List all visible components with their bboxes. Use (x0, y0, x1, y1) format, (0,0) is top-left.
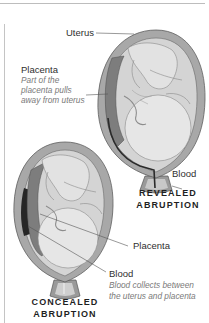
note-blood-line1: Blood collects between (109, 280, 194, 291)
caption-revealed-line2: ABRUPTION (130, 200, 206, 211)
label-blood-bottom: Blood (109, 268, 133, 279)
abruption-illustration (0, 0, 209, 323)
note-blood-line2: the uterus and placenta (109, 291, 196, 302)
caption-concealed-line1: CONCEALED (27, 297, 103, 308)
concealed-uterus-figure (14, 142, 113, 299)
caption-revealed-line1: REVEALED (130, 188, 206, 199)
note-placenta-line1: Part of the (21, 75, 59, 86)
label-blood-top: Blood (172, 168, 196, 179)
caption-concealed-line2: ABRUPTION (27, 309, 103, 320)
label-placenta-bottom: Placenta (133, 240, 170, 251)
label-uterus: Uterus (66, 27, 94, 38)
label-placenta-top: Placenta (21, 64, 58, 75)
note-placenta-line2: placenta pulls (21, 85, 72, 96)
note-placenta-line3: away from uterus (21, 95, 85, 106)
